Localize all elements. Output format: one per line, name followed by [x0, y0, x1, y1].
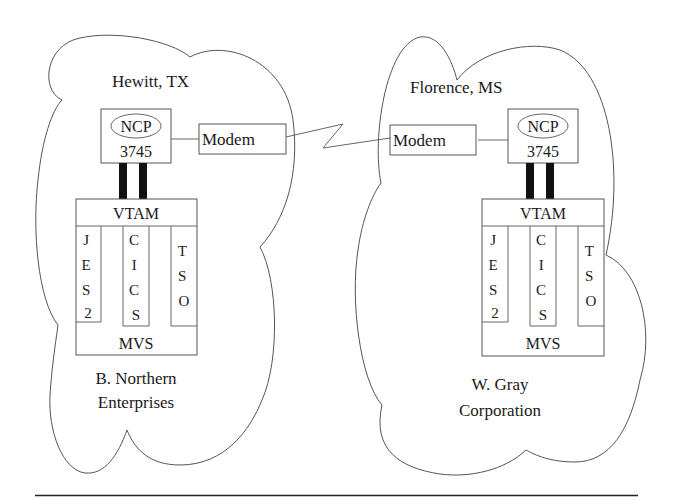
svg-text:T S O: T S O	[178, 243, 191, 309]
left-site: Hewitt, TX NCP 3745 Modem VTAM	[76, 72, 286, 412]
left-location-label: Hewitt, TX	[112, 72, 189, 91]
left-ncp-3745: NCP 3745	[101, 109, 171, 163]
right-channel-bar-1	[526, 163, 534, 199]
right-organization-line1: W. Gray	[472, 375, 529, 394]
svg-text:T S O: T S O	[585, 243, 598, 309]
right-modem: Modem	[390, 125, 476, 155]
left-channel-bar-1	[119, 163, 127, 199]
left-host-mvs: VTAM J E S 2 C I C S	[76, 199, 197, 355]
wan-link-lightning-bolt	[286, 124, 390, 148]
right-ncp-label: NCP	[527, 118, 558, 135]
right-location-label: Florence, MS	[410, 78, 503, 97]
left-organization-line2: Enterprises	[98, 393, 174, 412]
right-mvs-label: MVS	[526, 335, 561, 352]
sna-network-diagram: Hewitt, TX NCP 3745 Modem VTAM	[0, 0, 674, 500]
right-ncp-model: 3745	[527, 143, 559, 160]
right-organization-line2: Corporation	[459, 401, 542, 420]
left-modem: Modem	[199, 124, 286, 154]
left-organization-line1: B. Northern	[95, 369, 177, 388]
left-modem-label: Modem	[202, 130, 255, 149]
right-channel-bar-2	[546, 163, 554, 199]
left-vtam-label: VTAM	[113, 205, 159, 222]
left-ncp-model: 3745	[120, 143, 152, 160]
right-ncp-3745: NCP 3745	[508, 109, 578, 163]
left-mvs-label: MVS	[119, 335, 154, 352]
left-channel-bar-2	[139, 163, 147, 199]
right-host-mvs: VTAM J E S 2 C I C S	[482, 199, 604, 356]
right-site: Florence, MS Modem NCP 3745 VTAM	[390, 78, 604, 420]
right-modem-label: Modem	[393, 131, 446, 150]
left-ncp-label: NCP	[120, 118, 151, 135]
right-vtam-label: VTAM	[520, 205, 566, 222]
